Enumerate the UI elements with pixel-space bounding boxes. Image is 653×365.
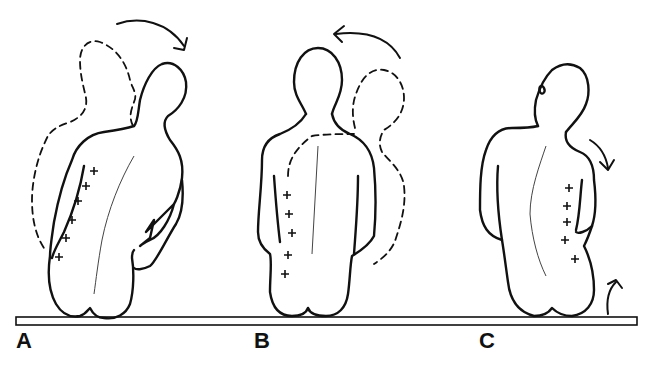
figure-a-dashed-outline: [32, 41, 135, 248]
figure-c-pelvis-arrow-icon: [607, 282, 616, 314]
figure-c-right-shoulder: [566, 132, 596, 233]
figure-b-spine: [312, 146, 318, 254]
figure-b-body-outline: [258, 114, 376, 316]
figure-b-left-arm: [274, 176, 280, 242]
figure-c-right-arm: [576, 180, 582, 230]
figure-b-rotation-arrow-icon: [336, 33, 400, 58]
figure-b: [258, 26, 405, 316]
figure-a-right-arm: [140, 204, 174, 246]
figure-c-spine: [530, 146, 546, 276]
figure-b-dashed-outline: [288, 70, 405, 264]
figure-a-plus-markers: [55, 167, 98, 261]
figure-a: [32, 21, 187, 319]
figure-c-ear: [539, 86, 544, 94]
figure-b-plus-markers: [281, 191, 296, 278]
figure-stage: A B C: [0, 0, 653, 365]
figure-c-left-arm: [497, 166, 502, 240]
figure-c: [480, 64, 622, 316]
figure-c-head-outline: [535, 64, 589, 132]
figure-a-body-outline: [49, 126, 134, 318]
figure-a-rotation-arrow-icon: [117, 21, 184, 46]
figure-a-right-forearm: [134, 180, 183, 269]
diagram-canvas: [0, 0, 653, 365]
figure-a-spine: [94, 156, 134, 294]
panel-label-c: C: [479, 330, 495, 352]
figure-c-shoulder-arrow-icon: [590, 140, 608, 168]
figure-b-head-outline: [294, 48, 342, 114]
panel-label-a: A: [16, 330, 32, 352]
figure-b-right-arm: [354, 176, 358, 254]
panel-label-b: B: [254, 330, 270, 352]
figure-a-head-shoulder-outline: [134, 63, 186, 204]
